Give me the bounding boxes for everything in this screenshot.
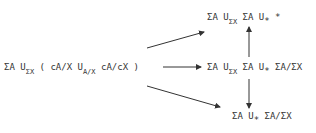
arrow-source-to-top <box>147 32 204 48</box>
source-part: ΣA U <box>4 62 26 72</box>
source-subscript: ΣX <box>26 68 34 76</box>
source-expression: ΣA UΣX ( cA/X UA/X cA/cX ) <box>4 63 139 72</box>
arrow-source-to-bottom <box>147 86 220 107</box>
top-part: ΣA U <box>207 12 229 22</box>
bottom-subscript: * <box>254 115 259 125</box>
middle-part: ΣA/ΣX <box>270 62 303 72</box>
middle-part: ΣA U <box>237 62 264 72</box>
top-subscript: ΣX <box>229 18 237 26</box>
bottom-part: ΣA U <box>232 111 254 121</box>
top-subscript: * <box>264 16 269 26</box>
source-part: cA/cX ) <box>96 62 139 72</box>
middle-expression: ΣA UΣX ΣA U* ΣA/ΣX <box>207 63 302 72</box>
middle-subscript: * <box>264 66 269 76</box>
source-subscript: A/X <box>83 68 96 76</box>
top-expression: ΣA UΣX ΣA U* * <box>207 13 280 22</box>
middle-subscript: ΣX <box>229 68 237 76</box>
source-part: ( cA/X U <box>34 62 83 72</box>
bottom-part: ΣA/ΣX <box>259 111 292 121</box>
top-part: * <box>270 12 281 22</box>
top-part: ΣA U <box>237 12 264 22</box>
middle-part: ΣA U <box>207 62 229 72</box>
bottom-expression: ΣA U* ΣA/ΣX <box>232 112 292 121</box>
